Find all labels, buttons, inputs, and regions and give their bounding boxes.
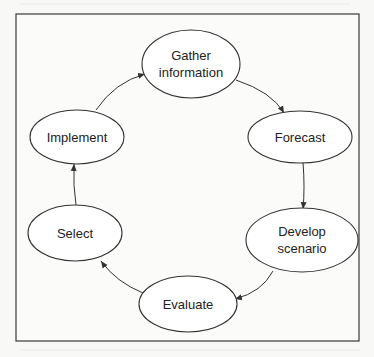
node-develop-scenario: Develop scenario bbox=[246, 208, 358, 272]
node-implement: Implement bbox=[30, 110, 124, 164]
node-label-line: Develop bbox=[278, 224, 326, 239]
svg-text:Gather: Gather bbox=[171, 48, 211, 63]
node-label-line: scenario bbox=[277, 241, 326, 256]
cycle-diagram: Gather information Forecast Develop scen… bbox=[0, 0, 374, 357]
node-label-line: information bbox=[159, 65, 223, 80]
svg-text:Select: Select bbox=[57, 226, 94, 241]
node-label-line: Evaluate bbox=[163, 297, 214, 312]
node-label-line: Gather bbox=[171, 48, 211, 63]
svg-text:scenario: scenario bbox=[277, 241, 326, 256]
svg-text:Implement: Implement bbox=[47, 130, 108, 145]
node-gather-information: Gather information bbox=[142, 30, 240, 98]
node-select: Select bbox=[28, 205, 122, 261]
svg-text:Evaluate: Evaluate bbox=[163, 297, 214, 312]
node-label-line: Implement bbox=[47, 130, 108, 145]
node-label-line: Select bbox=[57, 226, 94, 241]
svg-text:Develop: Develop bbox=[278, 224, 326, 239]
svg-text:Forecast: Forecast bbox=[275, 130, 326, 145]
node-forecast: Forecast bbox=[248, 111, 352, 163]
svg-text:information: information bbox=[159, 65, 223, 80]
node-label-line: Forecast bbox=[275, 130, 326, 145]
node-evaluate: Evaluate bbox=[139, 276, 237, 332]
